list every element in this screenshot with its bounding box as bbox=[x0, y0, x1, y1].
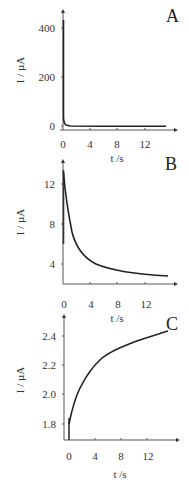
panel-a-xtick: 12 bbox=[140, 138, 151, 150]
panel-b-xlabel: t /s bbox=[110, 312, 123, 324]
panel-a-xtick: 0 bbox=[60, 138, 66, 150]
panel-a-curve bbox=[64, 20, 167, 126]
panel-c-xtick: 12 bbox=[143, 450, 154, 462]
panel-b-letter: B bbox=[165, 154, 177, 174]
panel-c-ytick: 2.0 bbox=[42, 388, 56, 400]
panel-b-xtick: 0 bbox=[61, 298, 67, 310]
panel-a-letter: A bbox=[166, 6, 179, 26]
panel-b-ytick: 8 bbox=[50, 218, 56, 230]
panel-c-xtick: 4 bbox=[92, 450, 98, 462]
panel-c-y-ticks: 2.4 2.2 2.0 1.8 bbox=[42, 330, 64, 430]
panel-b: B 12 8 4 0 4 8 12 I / µA t /s bbox=[14, 154, 177, 324]
panel-a-y-ticks: 400 200 0 bbox=[39, 22, 64, 132]
panel-a-x-ticks: 0 4 8 12 bbox=[60, 128, 150, 150]
panel-c-ytick: 2.4 bbox=[42, 330, 56, 342]
panel-c-ytick: 2.2 bbox=[42, 359, 56, 371]
panel-b-x-ticks: 0 4 8 12 bbox=[61, 282, 151, 310]
panel-b-ytick: 4 bbox=[50, 258, 56, 270]
panel-b-ytick: 12 bbox=[44, 178, 55, 190]
figure: A 400 200 0 0 4 8 12 I / µA t /s B bbox=[0, 0, 189, 491]
panel-b-ylabel: I / µA bbox=[14, 209, 26, 236]
panel-a-xtick: 8 bbox=[114, 138, 120, 150]
panel-b-y-ticks: 12 8 4 bbox=[44, 178, 63, 270]
panel-b-xtick: 12 bbox=[141, 298, 152, 310]
panel-c: C 2.4 2.2 2.0 1.8 0 4 8 12 I / µA t /s bbox=[14, 314, 178, 480]
panel-a-xtick: 4 bbox=[87, 138, 93, 150]
panel-c-ytick: 1.8 bbox=[42, 418, 56, 430]
panel-c-curve bbox=[69, 331, 168, 424]
panel-c-xlabel: t /s bbox=[113, 468, 126, 480]
panel-a-xlabel: t /s bbox=[110, 152, 123, 164]
panel-a-ytick: 200 bbox=[39, 71, 56, 83]
panel-a-ytick: 0 bbox=[50, 120, 56, 132]
panel-a-ylabel: I / µA bbox=[14, 57, 26, 84]
panel-b-xtick: 4 bbox=[88, 298, 94, 310]
panel-b-xtick: 8 bbox=[115, 298, 121, 310]
panel-c-xtick: 0 bbox=[66, 450, 72, 462]
panel-c-x-ticks: 0 4 8 12 bbox=[66, 438, 153, 462]
panel-a-ytick: 400 bbox=[39, 22, 56, 34]
panel-c-ylabel: I / µA bbox=[14, 367, 26, 394]
panel-c-xtick: 8 bbox=[118, 450, 124, 462]
panel-b-curve bbox=[64, 172, 169, 276]
panel-a: A 400 200 0 0 4 8 12 I / µA t /s bbox=[14, 6, 179, 164]
